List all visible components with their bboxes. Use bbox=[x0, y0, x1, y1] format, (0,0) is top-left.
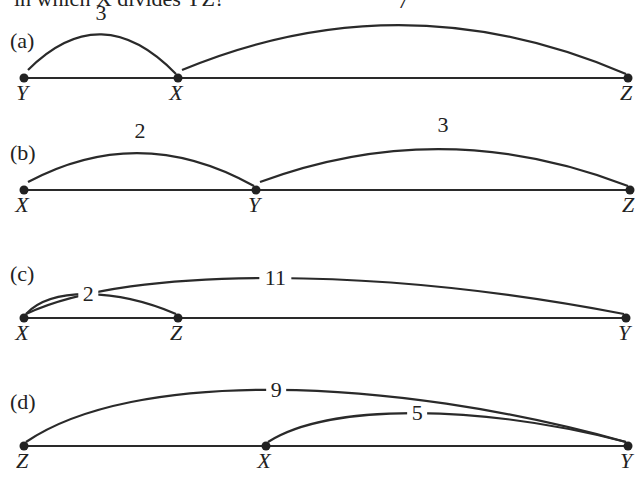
segment-diagrams: (a)37YXZ(b)23XYZ(c)112XZY(d)95ZXY bbox=[0, 0, 641, 477]
point-label: Z bbox=[622, 192, 635, 217]
point-label: Z bbox=[16, 448, 29, 473]
distance-label: 2 bbox=[135, 118, 146, 143]
point-label: Y bbox=[248, 192, 263, 217]
point-label: X bbox=[168, 80, 184, 105]
distance-label: 3 bbox=[438, 112, 449, 137]
distance-label: 9 bbox=[271, 377, 282, 402]
point-label: Y bbox=[618, 320, 633, 345]
panel-label: (d) bbox=[10, 389, 36, 414]
distance-label: 5 bbox=[412, 400, 423, 425]
distance-label: 11 bbox=[265, 265, 286, 290]
panel-label: (a) bbox=[10, 28, 34, 53]
point-label: X bbox=[256, 448, 272, 473]
point-label: X bbox=[14, 192, 30, 217]
distance-arc bbox=[26, 390, 626, 442]
panel-label: (c) bbox=[10, 261, 34, 286]
point-label: X bbox=[14, 320, 30, 345]
distance-label: 2 bbox=[83, 281, 94, 306]
distance-arc bbox=[182, 25, 626, 74]
distance-label: 3 bbox=[96, 0, 107, 25]
point-label: Z bbox=[170, 320, 183, 345]
panel-label: (b) bbox=[10, 140, 36, 165]
distance-arc bbox=[28, 34, 176, 74]
point-label: Z bbox=[620, 80, 633, 105]
point-label: Y bbox=[620, 448, 635, 473]
distance-arc bbox=[28, 153, 254, 186]
distance-label: 7 bbox=[398, 0, 409, 13]
point-label: Y bbox=[16, 80, 31, 105]
distance-arc bbox=[260, 149, 628, 186]
